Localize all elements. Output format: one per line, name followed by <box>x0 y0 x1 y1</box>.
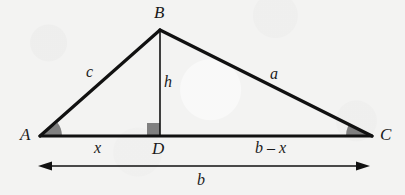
vertex-label-a: A <box>20 126 30 143</box>
geometry-figure: A B C D c h a x b – x b <box>0 0 405 195</box>
vertex-label-b: B <box>154 4 164 21</box>
dimension-arrowhead-right <box>356 162 370 171</box>
vertex-label-c: C <box>380 126 391 143</box>
segment-label-x: x <box>94 140 101 156</box>
triangle-diagram-canvas <box>0 0 405 195</box>
side-label-a: a <box>270 66 278 82</box>
side-label-h: h <box>164 74 172 90</box>
vertex-label-d: D <box>152 140 164 157</box>
side-label-c: c <box>86 64 93 80</box>
dimension-arrowhead-left <box>38 162 52 171</box>
segment-bc <box>160 30 372 136</box>
segment-ab <box>40 30 160 136</box>
segment-label-b-minus-x: b – x <box>255 140 286 156</box>
dimension-label-b: b <box>197 172 205 188</box>
right-angle-marker-d <box>147 123 160 136</box>
